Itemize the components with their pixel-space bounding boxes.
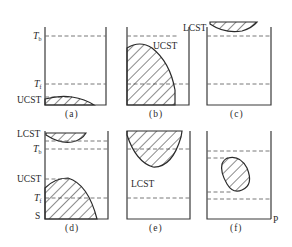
- lcst-label: LCST: [17, 129, 40, 139]
- panel-f-caption: (f): [230, 223, 243, 234]
- panel-d: LCST Tb UCST Tf S (d): [17, 129, 108, 234]
- panel-a-frame: [45, 27, 106, 105]
- two-phase-region: [127, 44, 175, 105]
- ucst-label: UCST: [17, 95, 41, 105]
- two-phase-region: [45, 178, 97, 219]
- panel-f: P (f): [207, 131, 278, 234]
- tb-label: Tb: [33, 30, 42, 42]
- tf-label: Tf: [34, 192, 42, 204]
- panel-b-caption: (b): [149, 109, 163, 120]
- panel-c-caption: (c): [230, 109, 244, 120]
- panel-e: LCST (e): [127, 131, 190, 234]
- lcst-region: [210, 22, 257, 32]
- ucst-label: UCST: [153, 41, 177, 51]
- panel-c-frame: [207, 27, 271, 105]
- tb-label: Tb: [33, 143, 42, 155]
- two-phase-region: [45, 96, 94, 105]
- p-label: P: [273, 215, 278, 225]
- panel-e-caption: (e): [149, 223, 163, 234]
- tf-label: Tf: [34, 78, 42, 90]
- panel-b: UCST (b): [127, 27, 189, 120]
- s-label: S: [35, 211, 40, 221]
- panel-c: LCST (c): [183, 22, 271, 120]
- lcst-label: LCST: [183, 23, 206, 33]
- panel-a-caption: (a): [65, 109, 79, 120]
- panel-d-caption: (d): [65, 223, 79, 234]
- lcst-region: [127, 131, 182, 167]
- ucst-label: UCST: [17, 174, 41, 184]
- lcst-label: LCST: [131, 179, 154, 189]
- phase-diagram-figure: Tb Tf UCST (a) UCST (b) LCST (c) LCST Tb…: [0, 0, 292, 247]
- closed-loop-region: [222, 157, 250, 191]
- panel-a: Tb Tf UCST (a): [17, 27, 106, 120]
